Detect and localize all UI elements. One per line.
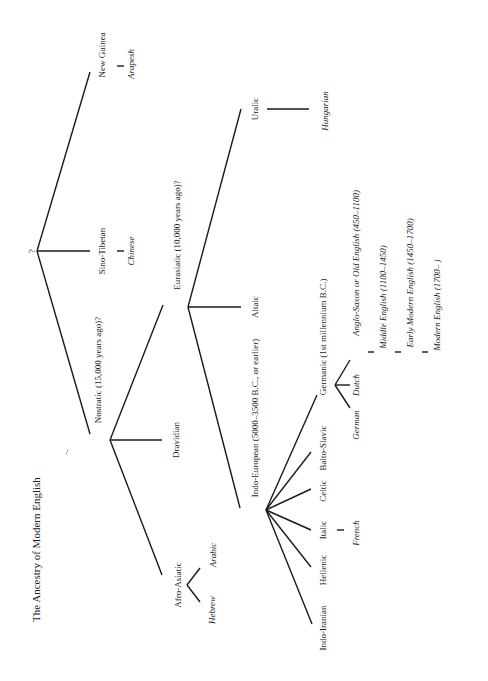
node-root: ? bbox=[27, 249, 37, 253]
node-hebrew: Hebrew bbox=[207, 596, 217, 625]
node-germanic: Germanic (1st millennium B.C.) bbox=[318, 279, 328, 396]
node-german: German bbox=[351, 410, 361, 440]
stray-mark bbox=[66, 449, 68, 455]
node-modern-english: Modern English (1700– ) bbox=[432, 259, 442, 351]
node-middle-english: Middle English (1100–1450) bbox=[378, 245, 388, 349]
node-balto-slavic: Balto-Slavic bbox=[318, 426, 328, 471]
node-french: French bbox=[351, 520, 361, 547]
node-afro-asiatic: Afro-Asiatic bbox=[173, 562, 183, 607]
node-old-english: Anglo-Saxon or Old English (450–1100) bbox=[351, 190, 361, 337]
node-celtic: Celtic bbox=[318, 480, 328, 502]
node-sino-tibetan: Sino-Tibetan bbox=[97, 227, 107, 274]
node-indo-european: Indo-European (5000–3500 B.C., or earlie… bbox=[250, 339, 260, 498]
node-arapesh: Arapesh bbox=[126, 49, 136, 80]
node-new-guinea: New Guinea bbox=[97, 32, 107, 77]
node-hungarian: Hungarian bbox=[320, 91, 330, 132]
node-hellenic: Hellenic bbox=[318, 555, 328, 586]
node-dutch: Dutch bbox=[351, 374, 361, 397]
node-indo-iranian: Indo-Iranian bbox=[318, 605, 328, 650]
language-family-tree: The Ancestry of Modern English ? Nostrat… bbox=[0, 0, 488, 681]
node-chinese: Chinese bbox=[126, 236, 136, 265]
diagram-title: The Ancestry of Modern English bbox=[30, 477, 42, 622]
node-altaic: Altaic bbox=[250, 296, 260, 318]
node-dravidian: Dravidian bbox=[171, 422, 181, 458]
node-italic: Italic bbox=[318, 521, 328, 540]
node-eurasiatic: Eurasiatic (10,000 years ago)? bbox=[172, 180, 182, 289]
node-uralic: Uralic bbox=[250, 98, 260, 121]
node-arabic: Arabic bbox=[208, 543, 218, 569]
node-early-modern-english: Early Modern English (1450–1700) bbox=[405, 218, 415, 348]
node-nostratic: Nostratic (15,000 years ago)? bbox=[93, 317, 103, 423]
